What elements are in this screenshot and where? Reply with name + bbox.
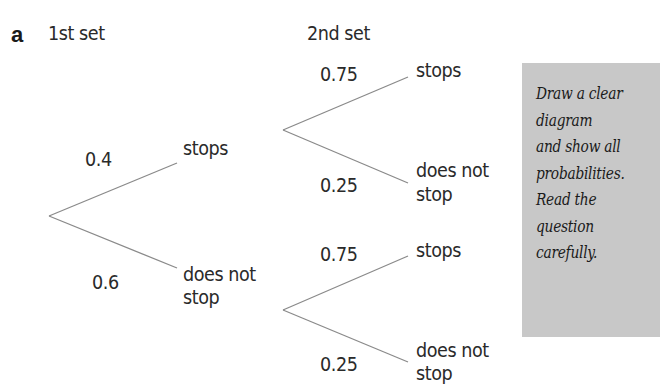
outcome-first-not-stop-line1: does not (183, 263, 256, 285)
outcome-stops-stops: stops (416, 59, 461, 81)
outcome-notstop-stops: stops (416, 239, 461, 261)
prob-notstop-not-stop: 0.25 (320, 353, 357, 375)
outcome-first-not-stop-line2: stop (183, 286, 219, 308)
outcome-stops-not-stop-line2: stop (416, 183, 452, 205)
prob-notstop-stops: 0.75 (320, 243, 357, 265)
prob-first-stops: 0.4 (85, 148, 112, 170)
branch-first-stops (49, 163, 177, 216)
outcome-notstop-not-stop-line1: does not (416, 339, 489, 361)
prob-first-not-stop: 0.6 (92, 271, 119, 293)
branch-first-not-stop (49, 216, 177, 268)
tip-note-box: Draw a clear diagram and show all probab… (522, 63, 660, 337)
outcome-stops-not-stop-line1: does not (416, 159, 489, 181)
prob-stops-not-stop: 0.25 (320, 174, 357, 196)
outcome-notstop-not-stop-line2: stop (416, 362, 452, 384)
tip-note-text: Draw a clear diagram and show all probab… (536, 81, 625, 267)
prob-stops-stops: 0.75 (320, 63, 357, 85)
outcome-first-stops: stops (183, 137, 228, 159)
